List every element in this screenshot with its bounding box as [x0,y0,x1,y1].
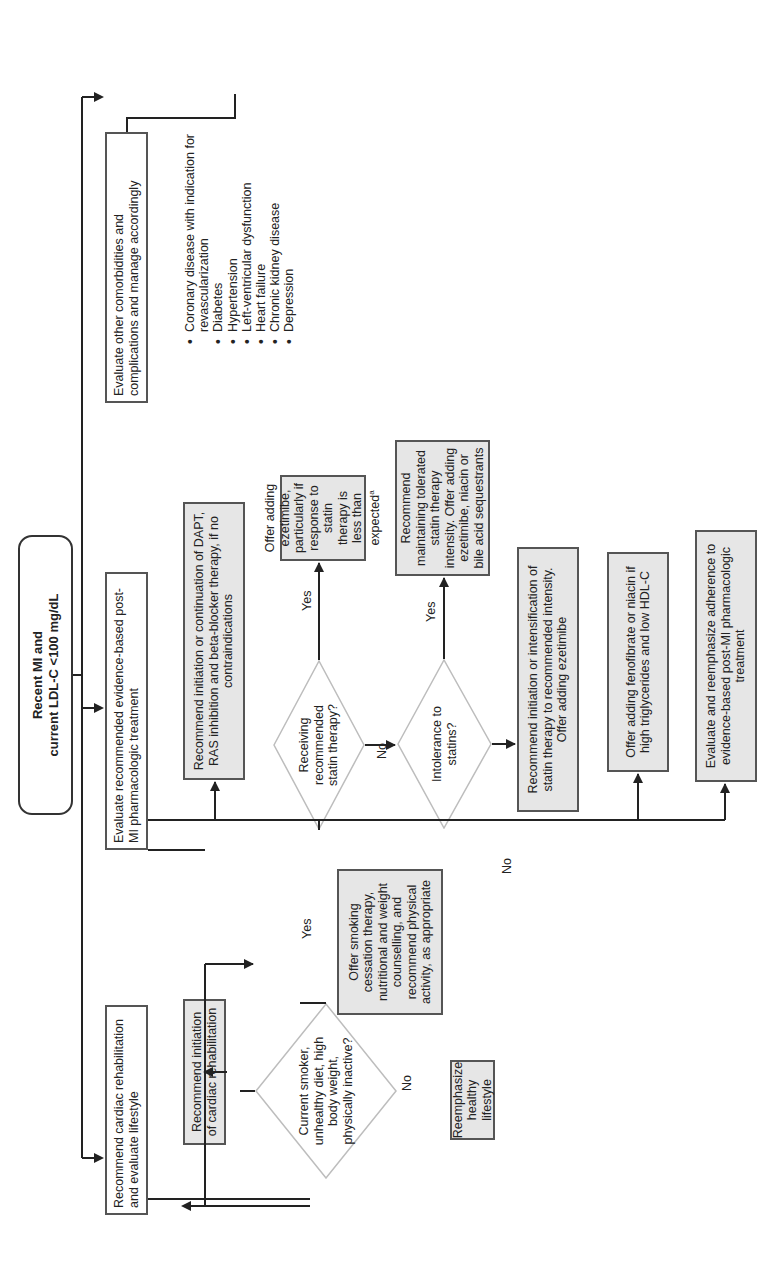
flowchart-canvas: Recent MI and current LDL-C <100 mg/dL R… [0,0,771,1269]
connectors-final [0,0,771,1269]
